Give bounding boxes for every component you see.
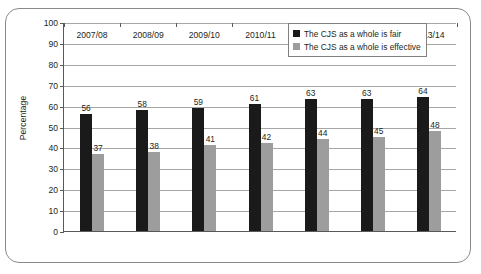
y-tick-label: 70 bbox=[48, 81, 58, 91]
chart-plot-wrapper: Percentage 1009080706050403020100 2007/0… bbox=[6, 9, 472, 264]
y-tick-mark bbox=[60, 128, 64, 129]
y-tick-mark bbox=[60, 148, 64, 149]
bar-value-label: 45 bbox=[374, 126, 383, 136]
y-tick-label: 0 bbox=[53, 227, 58, 237]
bar[interactable]: 38 bbox=[148, 152, 160, 231]
y-tick-mark bbox=[60, 211, 64, 212]
bar[interactable]: 44 bbox=[317, 139, 329, 231]
y-tick-mark bbox=[60, 190, 64, 191]
y-tick-label: 80 bbox=[48, 60, 58, 70]
bar-value-label: 38 bbox=[150, 141, 159, 151]
bar[interactable]: 61 bbox=[249, 104, 261, 231]
x-tick-mark bbox=[232, 23, 233, 27]
x-tick-mark bbox=[176, 23, 177, 27]
y-tick-mark bbox=[60, 86, 64, 87]
y-tick-label: 50 bbox=[48, 123, 58, 133]
bar-value-label: 58 bbox=[138, 99, 147, 109]
bar[interactable]: 64 bbox=[417, 97, 429, 231]
legend-item[interactable]: The CJS as a whole is effective bbox=[293, 40, 421, 53]
bar[interactable]: 59 bbox=[192, 108, 204, 231]
y-tick-label: 90 bbox=[48, 39, 58, 49]
bar-group: 5838 bbox=[136, 23, 160, 231]
bar-value-label: 44 bbox=[318, 128, 327, 138]
bar-value-label: 64 bbox=[418, 86, 427, 96]
legend-label: The CJS as a whole is fair bbox=[304, 29, 401, 39]
y-tick-mark bbox=[60, 65, 64, 66]
bar-value-label: 41 bbox=[206, 134, 215, 144]
bar-value-label: 63 bbox=[362, 88, 371, 98]
bar[interactable]: 41 bbox=[204, 145, 216, 231]
bar-value-label: 61 bbox=[250, 93, 259, 103]
y-tick-label: 60 bbox=[48, 102, 58, 112]
y-tick-mark bbox=[60, 107, 64, 108]
y-tick-mark bbox=[60, 232, 64, 233]
bar[interactable]: 48 bbox=[429, 131, 441, 231]
x-tick-mark bbox=[457, 23, 458, 27]
x-tick-mark bbox=[64, 23, 65, 27]
bar[interactable]: 63 bbox=[305, 99, 317, 231]
bar[interactable]: 56 bbox=[80, 114, 92, 231]
bar[interactable]: 42 bbox=[261, 143, 273, 231]
y-axis-title: Percentage bbox=[18, 63, 28, 173]
bar-value-label: 56 bbox=[81, 103, 90, 113]
legend-item[interactable]: The CJS as a whole is fair bbox=[293, 27, 421, 40]
chart-legend: The CJS as a whole is fairThe CJS as a w… bbox=[288, 23, 427, 57]
bar[interactable]: 45 bbox=[373, 137, 385, 231]
x-tick-mark bbox=[120, 23, 121, 27]
bar[interactable]: 58 bbox=[136, 110, 148, 231]
bar-value-label: 37 bbox=[93, 143, 102, 153]
bar-value-label: 59 bbox=[194, 97, 203, 107]
bar-value-label: 42 bbox=[262, 132, 271, 142]
y-tick-label: 20 bbox=[48, 185, 58, 195]
bar-group: 5637 bbox=[80, 23, 104, 231]
bar-value-label: 63 bbox=[306, 88, 315, 98]
legend-label: The CJS as a whole is effective bbox=[304, 42, 421, 52]
chart-frame: Percentage 1009080706050403020100 2007/0… bbox=[5, 8, 471, 263]
y-tick-label: 30 bbox=[48, 164, 58, 174]
y-tick-label: 10 bbox=[48, 206, 58, 216]
y-tick-mark bbox=[60, 44, 64, 45]
bar-group: 5941 bbox=[192, 23, 216, 231]
bar-value-label: 48 bbox=[430, 120, 439, 130]
bar[interactable]: 37 bbox=[92, 154, 104, 231]
legend-swatch-icon bbox=[293, 30, 300, 37]
legend-swatch-icon bbox=[293, 43, 300, 50]
bar[interactable]: 63 bbox=[361, 99, 373, 231]
y-tick-label: 40 bbox=[48, 143, 58, 153]
y-tick-mark bbox=[60, 169, 64, 170]
y-tick-label: 100 bbox=[44, 18, 58, 28]
bar-group: 6142 bbox=[249, 23, 273, 231]
